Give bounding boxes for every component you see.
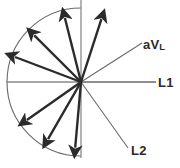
vector-diagram-canvas — [0, 0, 180, 168]
axis-vector-4 — [15, 57, 81, 82]
axis-vector-1 — [81, 19, 101, 82]
lead-l1-label: L1 — [158, 76, 174, 89]
lead-avl-label-subscript: L — [159, 41, 165, 52]
lead-avl-label: aVL — [143, 38, 165, 51]
vector-diagram: aVL L1 L2 — [0, 0, 180, 168]
lead-avl-label-text: aV — [143, 37, 159, 52]
lead-l2-label: L2 — [131, 144, 147, 157]
lead-l2-axis-line — [81, 82, 128, 148]
axis-vector-5 — [27, 82, 81, 120]
lead-avl-axis-line — [81, 43, 142, 82]
